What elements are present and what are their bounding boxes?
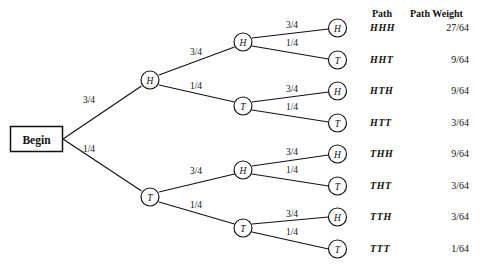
node-label-HHT: T — [335, 56, 341, 66]
node-HH: H — [234, 33, 252, 51]
edge-label-T-TH: 3/4 — [190, 166, 202, 176]
node-label-TTT: T — [335, 245, 341, 255]
node-label-TT: T — [240, 224, 246, 234]
leaf-nodes: H T H T H T H — [329, 19, 347, 258]
level2-nodes: H T H T — [234, 33, 252, 237]
weight-label-row-1: 9/64 — [451, 54, 469, 65]
node-HHT: T — [329, 51, 347, 69]
node-label-HHH: H — [333, 24, 342, 34]
node-label-TH: H — [239, 166, 248, 176]
path-weight-column-header: Path Weight — [410, 8, 464, 19]
path-labels-column: HHH HHT HTH HTT THH THT TTH TTT — [369, 22, 396, 254]
weight-label-row-0: 27/64 — [446, 22, 469, 33]
node-TT: T — [234, 219, 252, 237]
edge-label-root-H: 3/4 — [83, 95, 95, 105]
node-T: T — [141, 188, 159, 206]
path-label-row-4: THH — [370, 148, 394, 159]
weight-label-row-6: 3/64 — [451, 211, 469, 222]
node-TH: H — [234, 161, 252, 179]
edges-root-to-level1 — [63, 86, 142, 191]
edge-root-T — [63, 139, 142, 191]
path-label-row-5: THT — [370, 180, 392, 191]
edge-label-HH-HHH: 3/4 — [286, 20, 298, 30]
node-THT: T — [329, 177, 347, 195]
weight-label-row-2: 9/64 — [451, 85, 469, 96]
edge-label-TH-THT: 1/4 — [286, 165, 298, 175]
path-column-header: Path — [372, 8, 392, 19]
edge-HH-HHH — [252, 29, 329, 38]
node-label-TTH: H — [333, 213, 342, 223]
path-weight-column: 27/64 9/64 9/64 3/64 9/64 3/64 3/64 1/64 — [446, 22, 469, 254]
begin-label: Begin — [22, 134, 51, 147]
path-label-row-1: HHT — [369, 54, 394, 65]
weight-label-row-5: 3/64 — [451, 180, 469, 191]
path-label-row-0: HHH — [369, 22, 396, 33]
edge-TH-THT — [252, 174, 329, 186]
path-label-row-3: HTT — [369, 117, 392, 128]
path-label-row-7: TTT — [370, 243, 390, 254]
weight-label-row-7: 1/64 — [451, 243, 469, 254]
node-label-HTT: T — [335, 119, 341, 129]
edge-T-TH — [159, 174, 235, 192]
edge-label-HH-HHT: 1/4 — [286, 38, 298, 48]
node-label-H: H — [146, 76, 155, 86]
edge-label-TT-TTH: 3/4 — [286, 209, 298, 219]
node-HHH: H — [329, 19, 347, 37]
edge-label-H-HT: 1/4 — [190, 81, 202, 91]
edge-label-H-HH: 3/4 — [190, 47, 202, 57]
level1-nodes: H T — [141, 71, 159, 206]
node-label-THT: T — [335, 182, 341, 192]
edge-label-TH-THH: 3/4 — [286, 147, 298, 157]
node-label-T: T — [147, 193, 153, 203]
node-HTT: T — [329, 114, 347, 132]
node-label-HT: T — [240, 102, 246, 112]
tree-canvas: Begin H T H T H — [0, 0, 482, 268]
node-HT: T — [234, 97, 252, 115]
edge-label-TT-TTT: 1/4 — [286, 227, 298, 237]
node-HTH: H — [329, 82, 347, 100]
edge-label-root-T: 1/4 — [83, 144, 95, 154]
path-label-row-6: TTH — [370, 211, 392, 222]
edge-label-T-TT: 1/4 — [190, 200, 202, 210]
column-headers: Path Path Weight — [372, 8, 464, 19]
path-label-row-2: HTH — [369, 85, 394, 96]
node-TTH: H — [329, 208, 347, 226]
weight-label-row-3: 3/64 — [451, 117, 469, 128]
edge-root-H — [63, 86, 142, 139]
node-label-THH: H — [333, 150, 342, 160]
begin-node: Begin — [11, 127, 63, 152]
node-THH: H — [329, 145, 347, 163]
edges-level1-to-level2 — [159, 47, 235, 224]
edge-label-HT-HTH: 3/4 — [286, 84, 298, 94]
weight-label-row-4: 9/64 — [451, 148, 469, 159]
node-H: H — [141, 71, 159, 89]
node-TTT: T — [329, 240, 347, 258]
node-label-HTH: H — [333, 87, 342, 97]
edge-labels: 3/4 1/4 3/4 1/4 3/4 1/4 3/4 1/4 3/4 1/4 … — [83, 20, 298, 237]
node-label-HH: H — [239, 38, 248, 48]
edge-label-HT-HTT: 1/4 — [286, 102, 298, 112]
probability-tree-diagram: Begin H T H T H — [0, 0, 482, 268]
